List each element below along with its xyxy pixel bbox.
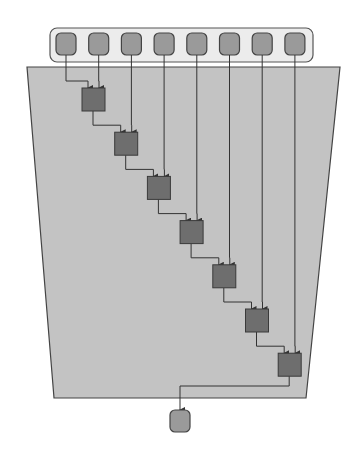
reduction-diagram <box>0 0 355 452</box>
input-node <box>285 33 305 55</box>
input-node <box>89 33 109 55</box>
operation-node <box>82 88 105 111</box>
input-node <box>252 33 272 55</box>
input-node <box>56 33 76 55</box>
operation-node <box>147 176 170 199</box>
input-node <box>121 33 141 55</box>
operation-node <box>180 221 203 244</box>
input-node <box>187 33 207 55</box>
input-node <box>154 33 174 55</box>
input-node <box>220 33 240 55</box>
operation-node <box>115 132 138 155</box>
operation-node <box>278 353 301 376</box>
output-node <box>170 410 190 432</box>
operation-node <box>213 265 236 288</box>
operation-node <box>246 309 269 332</box>
